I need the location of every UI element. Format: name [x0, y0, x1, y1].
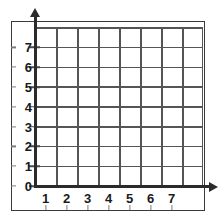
y-tick-label: 2 [16, 140, 32, 153]
y-axis-tick-labels: 7 6 5 4 3 2 1 0 [14, 0, 32, 224]
gridline-horizontal [35, 126, 203, 128]
x-axis-tick-labels: 1 2 3 4 5 6 7 [0, 192, 224, 208]
coordinate-grid-figure: 7 6 5 4 3 2 1 0 1 2 3 4 5 6 7 [0, 0, 224, 224]
y-tick-label: 6 [16, 61, 32, 74]
gridline-horizontal [35, 146, 203, 148]
gridline-horizontal [35, 106, 203, 108]
gridline-horizontal [35, 67, 203, 69]
x-tick-label: 1 [36, 192, 56, 205]
x-tick-label: 6 [141, 192, 161, 205]
y-tick-label: 0 [16, 180, 32, 193]
y-tick-label: 4 [16, 100, 32, 113]
x-tick-label: 7 [162, 192, 182, 205]
x-tick-label: 4 [99, 192, 119, 205]
horizontal-axis-line [34, 185, 212, 188]
grid-area [35, 27, 203, 186]
gridline-horizontal [35, 166, 203, 168]
y-tick-label: 3 [16, 120, 32, 133]
gridline-horizontal [35, 27, 203, 29]
vertical-axis-line [34, 14, 37, 188]
gridline-horizontal [35, 47, 203, 49]
horizontal-axis-arrow-icon [209, 182, 218, 192]
gridline-horizontal [35, 86, 203, 88]
y-tick-label: 1 [16, 160, 32, 173]
x-tick-label: 5 [120, 192, 140, 205]
y-tick-label: 5 [16, 81, 32, 94]
y-tick-label: 7 [16, 41, 32, 54]
x-tick-label: 3 [78, 192, 98, 205]
x-tick-label: 2 [57, 192, 77, 205]
